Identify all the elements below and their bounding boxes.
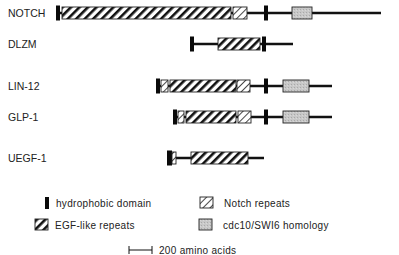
hydrophobic-domain-icon [45,197,49,209]
legend-item-hydrophobic-domain: hydrophobic domain [45,197,151,209]
legend-item-cdc10-swi6-homology: cdc10/SWI6 homology [199,219,329,231]
hydrophobic-domain [156,79,160,94]
hydrophobic-domain [56,6,60,21]
protein-row-glp-1: GLP-1 [8,110,332,125]
protein-label: UEGF-1 [8,152,47,164]
notch-repeats [233,7,247,19]
legend-item-notch-repeats: Notch repeats [200,197,290,209]
proteins-layer: NOTCHDLZMLIN-12GLP-1UEGF-1 [8,6,381,166]
notch-repeats [172,152,176,164]
notch-repeats [161,80,168,92]
egf-like-repeats [62,7,231,19]
egf-like-repeats [170,80,236,92]
protein-label: DLZM [8,38,37,50]
cdc10-swi6-homology-icon [199,219,212,230]
cdc10-swi6-homology [292,7,312,19]
notch-repeats [238,111,251,123]
egf-like-repeats [186,111,236,123]
legend-item-egf-like-repeats: EGF-like repeats [35,219,135,231]
egf-like-repeats-icon [35,219,48,230]
legend-label: EGF-like repeats [55,220,135,231]
protein-label: LIN-12 [8,80,40,92]
notch-repeats [178,111,184,123]
notch-repeats [237,80,250,92]
hydrophobic-domain [264,79,268,94]
egf-like-repeats [218,38,260,50]
protein-label: GLP-1 [8,111,39,123]
legend-label: hydrophobic domain [56,198,151,209]
hydrophobic-domain [173,110,177,125]
hydrophobic-domain [262,37,266,52]
protein-row-dlzm: DLZM [8,37,293,52]
protein-domain-diagram: NOTCHDLZMLIN-12GLP-1UEGF-1 hydrophobic d… [0,0,399,255]
hydrophobic-domain [264,110,268,125]
protein-label: NOTCH [8,7,45,19]
hydrophobic-domain [167,151,172,166]
scale-bar-label: 200 amino acids [159,245,236,255]
scale-bar: 200 amino acids [129,245,236,255]
hydrophobic-domain [264,6,268,21]
notch-repeats-icon [200,197,213,208]
cdc10-swi6-homology [283,111,309,123]
cdc10-swi6-homology [283,80,309,92]
protein-row-notch: NOTCH [8,6,381,21]
legend-label: cdc10/SWI6 homology [223,220,329,231]
legend: hydrophobic domainNotch repeatsEGF-like … [35,197,329,255]
egf-like-repeats [191,152,248,164]
legend-label: Notch repeats [224,198,290,209]
protein-row-lin-12: LIN-12 [8,79,332,94]
hydrophobic-domain [190,37,194,52]
protein-row-uegf-1: UEGF-1 [8,151,264,166]
